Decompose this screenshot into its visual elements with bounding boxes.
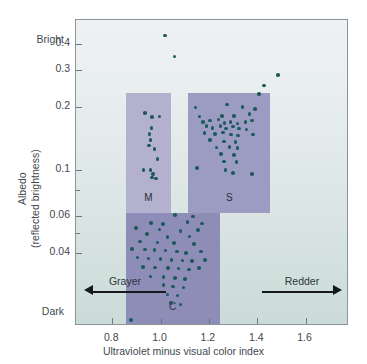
y-tick <box>76 170 82 171</box>
data-point <box>166 266 170 270</box>
data-point <box>166 235 170 239</box>
data-point <box>173 276 177 280</box>
data-point <box>234 140 238 144</box>
y-axis-title: Albedo <box>16 172 28 205</box>
data-point <box>134 226 138 230</box>
asteroid-albedo-color-figure: Bright Dark Albedo (reflected brightness… <box>0 0 367 364</box>
data-point <box>219 124 223 128</box>
x-tick-label: 1.0 <box>140 331 180 343</box>
data-point <box>237 127 241 131</box>
x-tick-label: 0.8 <box>91 331 131 343</box>
data-point <box>166 293 170 297</box>
y-minor-tick <box>76 190 80 191</box>
annotation-grayer-label: Grayer <box>84 275 166 287</box>
data-point <box>171 285 175 289</box>
data-point <box>173 213 177 217</box>
x-tick-label: 1.4 <box>236 331 276 343</box>
data-point <box>129 318 133 322</box>
y-tick <box>76 107 82 108</box>
data-point <box>232 114 236 118</box>
data-point <box>183 277 187 281</box>
data-point <box>219 152 223 156</box>
data-point <box>229 120 233 124</box>
region-box-c: C <box>126 213 220 325</box>
data-point <box>148 132 152 136</box>
x-tick <box>161 318 162 324</box>
annotation-grayer: Grayer <box>84 276 166 298</box>
data-point <box>224 168 228 172</box>
data-point <box>150 115 154 119</box>
data-point <box>250 172 254 176</box>
x-tick <box>112 318 113 324</box>
data-point <box>170 258 174 262</box>
arrow-shaft <box>92 291 166 293</box>
data-point <box>141 265 145 269</box>
data-point <box>179 229 183 233</box>
data-point <box>228 145 232 149</box>
y-tick <box>76 216 82 217</box>
data-point <box>151 172 155 176</box>
x-tick-label: 1.2 <box>188 331 228 343</box>
region-box-s: S <box>188 93 270 213</box>
data-point <box>236 134 240 138</box>
x-axis-title: Ultraviolet minus visual color index <box>0 345 367 357</box>
data-point <box>153 248 157 252</box>
y-tick <box>76 44 82 45</box>
arrow-shaft <box>262 291 334 293</box>
data-point <box>211 126 215 130</box>
region-label-c: C <box>126 301 220 312</box>
y-tick-label: 0.06 <box>50 208 70 220</box>
data-point <box>251 133 255 137</box>
data-point <box>232 153 236 157</box>
data-point <box>187 268 191 272</box>
data-point <box>153 147 157 151</box>
arrow-left-icon <box>84 285 93 295</box>
y-tick <box>76 70 82 71</box>
region-label-s: S <box>188 192 270 203</box>
y-tick-label: 0.3 <box>55 62 70 74</box>
y-axis-subtitle: (reflected brightness) <box>29 149 41 248</box>
data-point <box>222 160 226 164</box>
y-axis-bottom-label: Dark <box>42 305 64 317</box>
annotation-redder: Redder <box>262 276 342 298</box>
data-point <box>143 248 147 252</box>
data-point <box>190 259 194 263</box>
data-point <box>149 221 153 225</box>
data-point <box>236 146 240 150</box>
data-point <box>175 250 179 254</box>
data-point <box>196 228 200 232</box>
data-point <box>163 34 167 38</box>
region-box-m: M <box>126 93 172 213</box>
data-point <box>222 140 226 144</box>
y-tick-label: 0.04 <box>50 245 70 257</box>
data-point <box>184 251 188 255</box>
x-tick <box>209 318 210 324</box>
y-tick-label: 0.4 <box>55 36 70 48</box>
region-label-m: M <box>126 192 172 203</box>
data-point <box>154 177 158 181</box>
data-point <box>147 144 151 148</box>
data-point <box>161 222 165 226</box>
data-point <box>221 131 225 135</box>
data-point <box>220 114 224 118</box>
plot-inner: MSCGrayerRedder <box>76 20 347 324</box>
data-point <box>231 171 235 175</box>
data-point <box>203 258 207 262</box>
y-tick-label: 0.2 <box>55 99 70 111</box>
data-point <box>244 120 248 124</box>
data-point <box>172 241 176 245</box>
data-point <box>229 133 233 137</box>
x-tick-label: 1.6 <box>285 331 325 343</box>
annotation-redder-label: Redder <box>262 275 342 287</box>
data-point <box>145 232 149 236</box>
data-point <box>205 124 209 128</box>
data-point <box>213 132 217 136</box>
data-point <box>149 138 153 142</box>
data-point <box>130 247 134 251</box>
data-point <box>150 126 154 130</box>
data-point <box>253 107 257 111</box>
data-point <box>223 121 227 125</box>
y-tick-label: 0.1 <box>55 162 70 174</box>
data-point <box>276 73 280 77</box>
data-point <box>173 55 177 59</box>
